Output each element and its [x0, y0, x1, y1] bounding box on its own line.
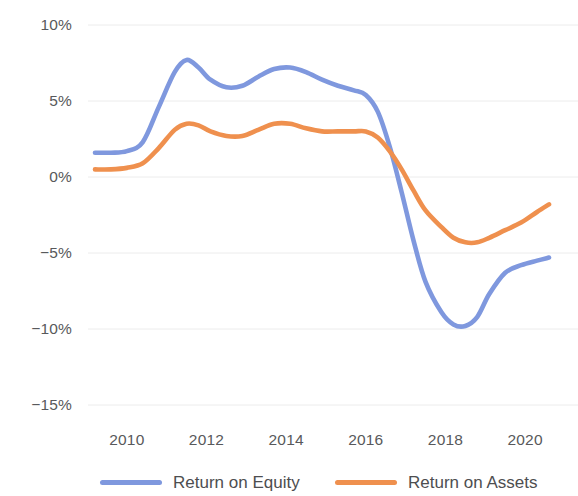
- y-axis-tick-label: 0%: [6, 169, 72, 185]
- x-axis-tick-label: 2010: [109, 432, 144, 448]
- y-axis-tick-label: −10%: [6, 321, 72, 337]
- series-line-return-on-equity: [95, 60, 549, 327]
- x-axis-tick-label: 2012: [189, 432, 224, 448]
- plot-area: [0, 0, 578, 430]
- legend-line-swatch: [100, 480, 162, 485]
- x-axis-tick-label: 2020: [507, 432, 542, 448]
- x-axis-tick-label: 2018: [428, 432, 463, 448]
- y-axis-tick-label: 10%: [6, 17, 72, 33]
- legend-item-return-on-equity[interactable]: Return on Equity: [100, 468, 300, 496]
- x-axis: 201020122014201620182020: [0, 420, 578, 452]
- y-axis-tick-label: 5%: [6, 93, 72, 109]
- legend-label: Return on Equity: [173, 474, 300, 491]
- x-axis-tick-label: 2016: [348, 432, 383, 448]
- line-chart-svg: [0, 0, 578, 430]
- x-axis-tick-label: 2014: [269, 432, 304, 448]
- y-axis-tick-label: −5%: [6, 245, 72, 261]
- y-axis: 10%5%0%−5%−10%−15%: [0, 0, 72, 430]
- chart-container: 10%5%0%−5%−10%−15% 201020122014201620182…: [0, 0, 578, 496]
- legend-item-return-on-assets[interactable]: Return on Assets: [335, 468, 537, 496]
- legend-line-swatch: [335, 480, 397, 485]
- y-axis-tick-label: −15%: [6, 397, 72, 413]
- chart-legend: Return on EquityReturn on Assets: [0, 468, 578, 496]
- series-line-return-on-assets: [95, 123, 549, 243]
- legend-label: Return on Assets: [408, 474, 537, 491]
